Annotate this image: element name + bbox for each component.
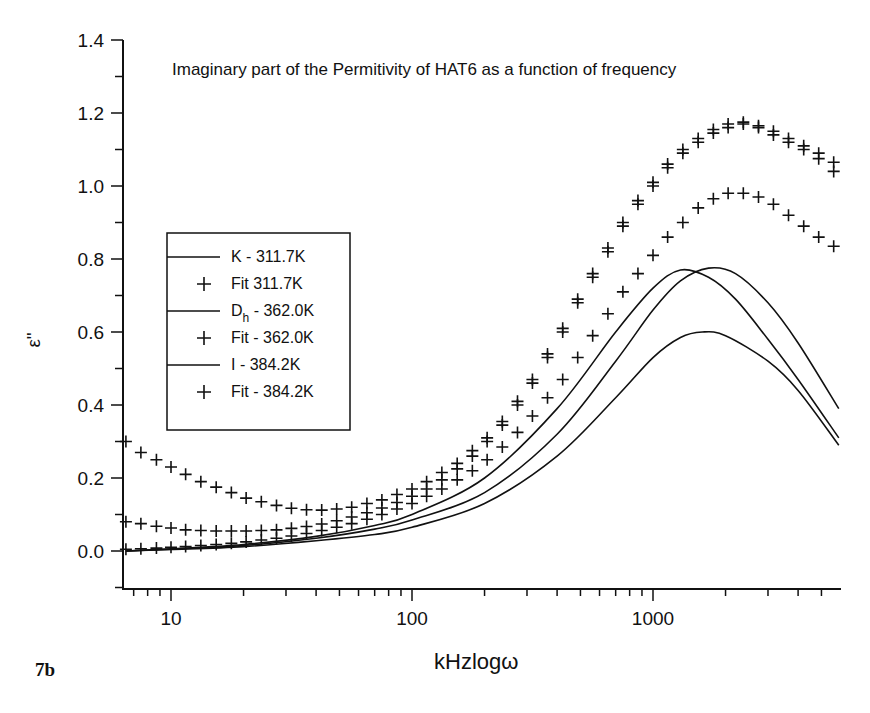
plus-marker [587,330,599,342]
plus-marker [195,540,207,552]
plus-marker [783,209,795,221]
plus-marker [210,525,222,537]
plus-marker [677,217,689,229]
legend: K - 311.7KFit 311.7KDh - 362.0KFit - 362… [167,233,350,430]
plus-marker [406,498,418,510]
plus-marker [828,165,840,177]
y-tick-label: 1.2 [78,103,104,124]
plus-marker [165,541,177,553]
plus-marker [722,187,734,199]
plus-marker [632,268,644,280]
y-tick-label: 0.8 [78,249,104,270]
plus-marker [240,525,252,537]
plus-marker [376,509,388,521]
plus-marker [436,483,448,495]
y-axis-label: ε" [23,332,44,347]
x-ticks: 101001000 [134,589,822,629]
plus-marker [135,518,147,530]
x-tick-label: 100 [396,608,428,629]
plus-marker [496,441,508,453]
plus-marker [331,503,343,515]
plus-marker [828,240,840,252]
plus-marker [255,496,267,508]
chart-title: Imaginary part of the Permitivity of HAT… [172,60,677,79]
plus-marker [270,499,282,511]
x-axis-label: kHzlogω [434,649,518,674]
y-tick-label: 0.6 [78,322,104,343]
y-tick-label: 0.2 [78,468,104,489]
plus-marker [180,468,192,480]
plus-marker [421,490,433,502]
plus-marker [481,454,493,466]
plus-marker [225,525,237,537]
plus-marker [331,521,343,533]
plus-marker [692,202,704,214]
legend-label: Fit - 384.2K [231,383,314,400]
plus-marker [240,492,252,504]
plus-marker [195,525,207,537]
plus-marker [767,198,779,210]
plus-marker [752,122,764,134]
plus-marker [135,446,147,458]
plus-marker [662,231,674,243]
plus-marker [150,520,162,532]
plus-marker [813,153,825,165]
x-tick-label: 1000 [632,608,674,629]
y-ticks: 0.00.20.40.60.81.01.21.4 [78,30,123,588]
y-tick-label: 0.4 [78,395,105,416]
plus-marker [346,518,358,530]
plus-marker [316,504,328,516]
chart: 0.00.20.40.60.81.01.21.4 101001000 Imagi… [0,0,870,713]
plus-marker [165,522,177,534]
plus-marker [798,220,810,232]
plus-marker [165,461,177,473]
plus-marker [120,543,132,555]
legend-label: I - 384.2K [231,356,301,373]
plus-marker [707,193,719,205]
plus-marker [557,373,569,385]
plus-marker [135,543,147,555]
plus-marker [752,191,764,203]
plus-marker [150,542,162,554]
plus-marker [737,118,749,130]
plus-marker [451,463,463,475]
plus-marker [647,249,659,261]
plus-marker [150,454,162,466]
legend-label: Fit 311.7K [231,275,303,292]
plus-marker [225,487,237,499]
plus-marker [737,187,749,199]
plus-marker [180,541,192,553]
plus-marker [361,513,373,525]
plus-marker [120,516,132,528]
plus-marker [466,465,478,477]
plus-marker [180,524,192,536]
plus-marker [466,450,478,462]
y-tick-label: 0.0 [78,541,104,562]
plus-marker [511,426,523,438]
y-tick-label: 1.0 [78,176,104,197]
plus-marker [813,231,825,243]
legend-label: K - 311.7K [231,248,306,265]
legend-label: Fit - 362.0K [231,329,314,346]
plus-marker [572,352,584,364]
plus-marker [391,503,403,515]
y-tick-label: 1.4 [78,30,105,51]
plus-marker [617,286,629,298]
figure-label: 7b [35,659,55,680]
plus-marker [285,502,297,514]
x-tick-label: 10 [160,608,181,629]
plus-marker [451,474,463,486]
plus-marker [542,392,554,404]
plus-marker [195,476,207,488]
plus-marker [301,504,313,516]
plus-marker [602,308,614,320]
plus-marker [526,410,538,422]
plus-marker [210,481,222,493]
